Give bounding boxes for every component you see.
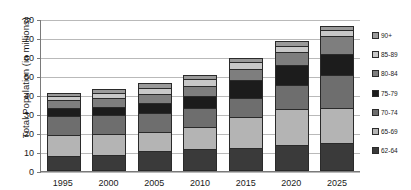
y-axis-tick-label: 20 — [24, 129, 34, 139]
legend-item-75-79[interactable]: 75-79 — [372, 84, 411, 103]
x-axis-tick-label: 2015 — [229, 173, 263, 188]
legend-item-label: 90+ — [381, 32, 392, 39]
legend-item-80-84[interactable]: 80-84 — [372, 64, 411, 83]
bar-segment-70-74[interactable] — [229, 98, 263, 117]
chart-legend: 90+85-8980-8475-7970-7465-6962-64 — [372, 26, 411, 160]
bar-segment-65-69[interactable] — [229, 117, 263, 148]
bar-segment-80-84[interactable] — [320, 36, 354, 54]
bar-segment-62-64[interactable] — [138, 151, 172, 171]
legend-item-label: 75-79 — [381, 90, 398, 97]
bar-segment-65-69[interactable] — [92, 134, 126, 155]
legend-swatch-icon — [372, 128, 379, 135]
bar-group[interactable] — [47, 20, 81, 171]
y-axis-tick-label: 10 — [24, 148, 34, 158]
bar-segment-62-64[interactable] — [320, 143, 354, 171]
bar-segment-65-69[interactable] — [47, 135, 81, 156]
legend-item-label: 62-64 — [381, 147, 398, 154]
legend-swatch-icon — [372, 32, 379, 39]
bar-segment-62-64[interactable] — [92, 155, 126, 171]
bar-group[interactable] — [275, 20, 309, 171]
bar-segment-75-79[interactable] — [229, 80, 263, 97]
bar-segment-65-69[interactable] — [138, 132, 172, 151]
bar-segment-80-84[interactable] — [138, 94, 172, 103]
bar-segment-75-79[interactable] — [138, 103, 172, 113]
bar-segment-70-74[interactable] — [183, 108, 217, 127]
bar-segment-62-64[interactable] — [275, 145, 309, 171]
x-axis-tick-label: 2025 — [320, 173, 354, 188]
legend-item-label: 80-84 — [381, 70, 398, 77]
bar-segment-80-84[interactable] — [47, 100, 81, 108]
legend-item-label: 65-69 — [381, 128, 398, 135]
bar-group[interactable] — [183, 20, 217, 171]
bar-segment-65-69[interactable] — [183, 127, 217, 149]
legend-item-85-89[interactable]: 85-89 — [372, 45, 411, 64]
legend-item-62-64[interactable]: 62-64 — [372, 141, 411, 160]
bar-segment-80-84[interactable] — [92, 98, 126, 107]
bar-segment-65-69[interactable] — [275, 109, 309, 145]
x-axis-tick-label: 2020 — [274, 173, 308, 188]
bar-segment-62-64[interactable] — [229, 148, 263, 171]
bar-segment-70-74[interactable] — [320, 75, 354, 108]
legend-swatch-icon — [372, 147, 379, 154]
x-axis-tick-label: 2000 — [92, 173, 126, 188]
legend-item-label: 70-74 — [381, 109, 398, 116]
bar-segment-65-69[interactable] — [320, 108, 354, 143]
bar-segment-80-84[interactable] — [275, 52, 309, 65]
y-axis-tick-label: 40 — [24, 91, 34, 101]
bar-segment-80-84[interactable] — [183, 86, 217, 96]
x-axis-tick-label: 1995 — [46, 173, 80, 188]
bar-group[interactable] — [229, 20, 263, 171]
bar-segment-75-79[interactable] — [320, 54, 354, 75]
bar-segment-85-89[interactable] — [275, 46, 309, 53]
bar-segment-80-84[interactable] — [229, 69, 263, 80]
x-axis-tick-label: 2010 — [183, 173, 217, 188]
legend-item-90+[interactable]: 90+ — [372, 26, 411, 45]
bar-segment-70-74[interactable] — [47, 116, 81, 135]
legend-swatch-icon — [372, 51, 379, 58]
x-axis-tick-label: 2005 — [137, 173, 171, 188]
bar-segment-75-79[interactable] — [183, 96, 217, 108]
bar-segment-75-79[interactable] — [47, 108, 81, 116]
bar-segment-70-74[interactable] — [275, 85, 309, 109]
y-axis-tick-label: 50 — [24, 72, 34, 82]
bar-series-container — [41, 20, 360, 171]
y-axis-tick-label: 30 — [24, 110, 34, 120]
stacked-bar-chart: Total Population (in millions) 807060504… — [0, 0, 411, 190]
bar-group[interactable] — [138, 20, 172, 171]
bar-segment-70-74[interactable] — [92, 115, 126, 134]
y-axis-tick-label: 80 — [24, 15, 34, 25]
bar-segment-62-64[interactable] — [47, 156, 81, 171]
legend-swatch-icon — [372, 70, 379, 77]
bar-group[interactable] — [92, 20, 126, 171]
bar-segment-62-64[interactable] — [183, 149, 217, 171]
legend-item-label: 85-89 — [381, 51, 398, 58]
y-axis-tick-label: 60 — [24, 53, 34, 63]
y-axis-tick-label: 70 — [24, 34, 34, 44]
y-axis-tick-label: 0 — [29, 167, 34, 177]
legend-swatch-icon — [372, 90, 379, 97]
plot-area: 80706050403020100 — [40, 20, 360, 172]
legend-item-70-74[interactable]: 70-74 — [372, 103, 411, 122]
bar-segment-75-79[interactable] — [92, 107, 126, 116]
bar-segment-75-79[interactable] — [275, 65, 309, 85]
x-axis-labels: 1995200020052010201520202025 — [40, 173, 360, 190]
bar-group[interactable] — [320, 20, 354, 171]
legend-item-65-69[interactable]: 65-69 — [372, 122, 411, 141]
bar-segment-70-74[interactable] — [138, 113, 172, 132]
legend-swatch-icon — [372, 109, 379, 116]
